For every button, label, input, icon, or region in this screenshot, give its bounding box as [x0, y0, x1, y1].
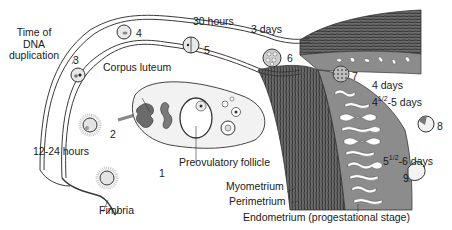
- diagram-canvas: [0, 0, 452, 230]
- ovary: [132, 82, 264, 148]
- label-fraction: 1/2: [378, 95, 388, 102]
- stage-6-number: 6: [287, 52, 293, 64]
- stage-4-number: 4: [136, 27, 142, 39]
- label-4-days: 4 days: [372, 80, 403, 92]
- label-part: -6 days: [399, 155, 433, 167]
- label-5-6-days: 51/2-6 days: [383, 154, 433, 167]
- label-fraction: 1/2: [389, 154, 399, 161]
- stage-5-number: 5: [204, 44, 210, 56]
- label-line: duplication: [2, 50, 66, 62]
- label-myometrium: Myometrium: [226, 181, 284, 193]
- label-preovulatory-follicle: Preovulatory follicle: [179, 157, 270, 169]
- stage-9-number: 9: [403, 172, 409, 184]
- stage-2-number: 2: [110, 128, 116, 140]
- label-perimetrium: Perimetrium: [229, 196, 286, 208]
- label-corpus-luteum: Corpus luteum: [103, 62, 171, 74]
- label-30-hours: 30 hours: [193, 16, 234, 28]
- label-fimbria: Fimbria: [99, 205, 134, 217]
- label-line: Time of: [2, 27, 66, 39]
- label-endometrium: Endometrium (progestational stage): [243, 212, 410, 224]
- stage-1-number: 1: [159, 167, 165, 179]
- label-part: -5 days: [388, 96, 422, 108]
- stage-7-number: 7: [352, 70, 358, 82]
- label-3-days: 3 days: [251, 24, 282, 36]
- label-12-24-hours: 12-24 hours: [33, 146, 89, 158]
- stage-8-number: 8: [437, 120, 443, 132]
- label-4-5-days: 41/2-5 days: [372, 95, 422, 108]
- stage-3-number: 3: [73, 54, 79, 66]
- label-time-dna-duplication: Time of DNA duplication: [2, 27, 66, 62]
- myometrium-top: [300, 10, 421, 55]
